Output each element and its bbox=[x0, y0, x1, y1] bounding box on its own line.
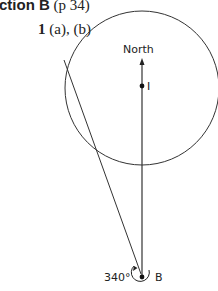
point-i-dot bbox=[140, 84, 145, 89]
point-i-label: I bbox=[147, 80, 150, 93]
north-arrow-icon bbox=[140, 58, 145, 65]
bearing-line bbox=[64, 60, 141, 274]
point-b-label: B bbox=[155, 271, 163, 284]
bearing-label: 340° bbox=[104, 271, 131, 284]
north-label: North bbox=[123, 43, 154, 56]
point-b-dot bbox=[140, 275, 145, 280]
bearing-diagram: North I B 340° bbox=[0, 0, 218, 291]
